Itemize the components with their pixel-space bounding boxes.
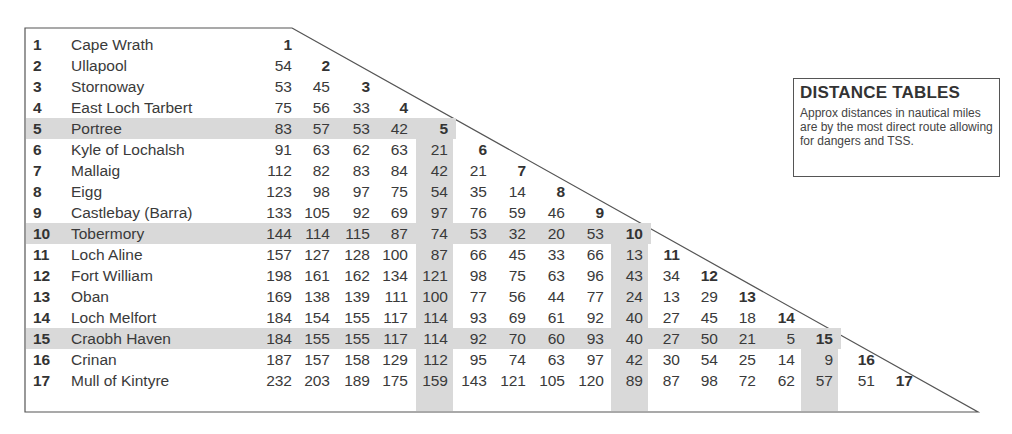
distance-cell: 112 [412,349,448,370]
column-number: 14 [759,307,795,328]
distance-cell: 20 [529,223,565,244]
column-number: 7 [490,160,526,181]
distance-cell: 57 [294,118,330,139]
distance-cell: 76 [451,202,487,223]
column-number: 3 [334,76,370,97]
row-number: 5 [33,118,63,139]
distance-cell: 111 [372,286,408,307]
distance-cell: 14 [490,181,526,202]
distance-cell: 59 [490,202,526,223]
distance-cell: 83 [256,118,292,139]
distance-cell: 63 [294,139,330,160]
place-name: Oban [71,286,109,307]
distance-cell: 114 [294,223,330,244]
column-number: 2 [294,55,330,76]
place-name: Stornoway [71,76,144,97]
distance-cell: 100 [412,286,448,307]
distance-cell: 27 [644,328,680,349]
distance-cell: 63 [529,265,565,286]
column-number: 6 [451,139,487,160]
distance-cell: 83 [334,160,370,181]
distance-cell: 97 [568,349,604,370]
distance-cell: 45 [294,76,330,97]
column-number: 13 [720,286,756,307]
distance-cell: 155 [294,328,330,349]
distance-cell: 51 [839,370,875,391]
distance-cell: 66 [568,244,604,265]
distance-cell: 62 [759,370,795,391]
row-number: 16 [33,349,63,370]
distance-cell: 175 [372,370,408,391]
distance-cell: 53 [256,76,292,97]
distance-table: 1Cape Wrath12Ullapool5423Stornoway534534… [0,0,1012,434]
row-number: 11 [33,244,63,265]
distance-cell: 82 [294,160,330,181]
distance-cell: 169 [256,286,292,307]
distance-cell: 50 [682,328,718,349]
distance-cell: 33 [529,244,565,265]
distance-cell: 53 [334,118,370,139]
distance-cell: 70 [490,328,526,349]
distance-cell: 60 [529,328,565,349]
distance-cell: 14 [759,349,795,370]
distance-cell: 143 [451,370,487,391]
distance-cell: 144 [256,223,292,244]
row-number: 7 [33,160,63,181]
distance-cell: 13 [607,244,643,265]
distance-cell: 21 [720,328,756,349]
distance-cell: 61 [529,307,565,328]
row-number: 1 [33,34,63,55]
distance-cell: 203 [294,370,330,391]
distance-cell: 43 [607,265,643,286]
distance-cell: 92 [451,328,487,349]
distance-cell: 74 [490,349,526,370]
row-number: 12 [33,265,63,286]
distance-cell: 93 [568,328,604,349]
column-number: 15 [797,328,833,349]
distance-cell: 134 [372,265,408,286]
distance-cell: 53 [568,223,604,244]
distance-cell: 105 [294,202,330,223]
distance-cell: 184 [256,307,292,328]
distance-cell: 5 [759,328,795,349]
distance-cell: 54 [256,55,292,76]
distance-cell: 92 [568,307,604,328]
distance-cell: 198 [256,265,292,286]
distance-cell: 77 [451,286,487,307]
distance-cell: 69 [490,307,526,328]
column-number: 4 [372,97,408,118]
row-number: 14 [33,307,63,328]
row-number: 6 [33,139,63,160]
distance-cell: 62 [334,139,370,160]
distance-cell: 9 [797,349,833,370]
place-name: East Loch Tarbert [71,97,192,118]
place-name: Mull of Kintyre [71,370,169,391]
distance-cell: 139 [334,286,370,307]
place-name: Crinan [71,349,117,370]
distance-cell: 158 [334,349,370,370]
distance-cell: 56 [294,97,330,118]
distance-cell: 112 [256,160,292,181]
distance-cell: 154 [294,307,330,328]
distance-cell: 45 [490,244,526,265]
distance-cell: 155 [334,307,370,328]
distance-cell: 121 [490,370,526,391]
distance-cell: 63 [529,349,565,370]
distance-cell: 44 [529,286,565,307]
column-number: 11 [644,244,680,265]
legend-box: DISTANCE TABLES Approx distances in naut… [793,78,1000,177]
distance-cell: 25 [720,349,756,370]
distance-cell: 128 [334,244,370,265]
place-name: Craobh Haven [71,328,171,349]
distance-cell: 114 [412,307,448,328]
distance-cell: 66 [451,244,487,265]
distance-cell: 123 [256,181,292,202]
distance-cell: 27 [644,307,680,328]
distance-cell: 187 [256,349,292,370]
place-name: Kyle of Lochalsh [71,139,185,160]
distance-cell: 57 [797,370,833,391]
distance-cell: 127 [294,244,330,265]
row-number: 3 [33,76,63,97]
distance-cell: 32 [490,223,526,244]
distance-cell: 100 [372,244,408,265]
